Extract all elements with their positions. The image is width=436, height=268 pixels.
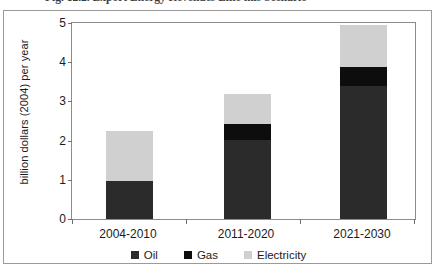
x-tick-mark	[186, 219, 187, 224]
bar-2004-2010[interactable]	[106, 131, 153, 219]
y-tick-label: 3	[59, 94, 66, 108]
legend-swatch-electricity	[244, 251, 252, 259]
y-axis-title: billion dollars (2004) per year	[18, 22, 30, 202]
bar-segment-gas	[224, 124, 271, 140]
y-tick-label: 2	[59, 134, 66, 148]
figure-container: Fig. 12.2. Export Energy Revenues Like t…	[0, 0, 436, 268]
x-tick-mark	[72, 219, 73, 224]
x-tick-label-2004-2010: 2004-2010	[99, 227, 156, 241]
bar-segment-oil	[340, 86, 387, 219]
y-tick-label: 1	[59, 173, 66, 187]
figure-caption: Fig. 12.2. Export Energy Revenues Like t…	[45, 0, 395, 3]
legend-item-gas[interactable]: Gas	[184, 249, 218, 261]
legend-label-gas: Gas	[197, 249, 218, 261]
x-tick-label-2011-2020: 2011-2020	[218, 227, 275, 241]
legend-item-oil[interactable]: Oil	[131, 249, 158, 261]
y-tick-mark	[68, 23, 72, 24]
figure-caption-strip: Fig. 12.2. Export Energy Revenues Like t…	[0, 0, 436, 9]
bar-segment-electricity	[106, 131, 153, 181]
bar-2011-2020[interactable]	[224, 94, 271, 219]
chart-frame: billion dollars (2004) per year 0 1 2 3 …	[3, 10, 432, 264]
bar-segment-gas	[340, 67, 387, 86]
y-tick-label: 5	[59, 16, 66, 30]
legend-swatch-gas	[184, 251, 192, 259]
y-tick-mark	[68, 101, 72, 102]
y-tick-label: 4	[59, 55, 66, 69]
bar-segment-electricity	[340, 25, 387, 67]
y-tick-label: 0	[59, 212, 66, 226]
legend-label-electricity: Electricity	[257, 249, 306, 261]
bar-segment-electricity	[224, 94, 271, 124]
chart-legend: Oil Gas Electricity	[4, 249, 433, 261]
legend-item-electricity[interactable]: Electricity	[244, 249, 306, 261]
y-tick-mark	[68, 141, 72, 142]
bar-segment-oil	[224, 140, 271, 219]
bar-segment-oil	[106, 181, 153, 219]
y-tick-mark	[68, 62, 72, 63]
y-tick-mark	[68, 180, 72, 181]
x-tick-label-2021-2030: 2021-2030	[333, 227, 390, 241]
plot-area: 0 1 2 3 4 5	[71, 22, 416, 220]
legend-swatch-oil	[131, 251, 139, 259]
x-tick-mark	[300, 219, 301, 224]
bar-2021-2030[interactable]	[340, 25, 387, 219]
legend-label-oil: Oil	[144, 249, 158, 261]
x-tick-mark	[414, 219, 415, 224]
